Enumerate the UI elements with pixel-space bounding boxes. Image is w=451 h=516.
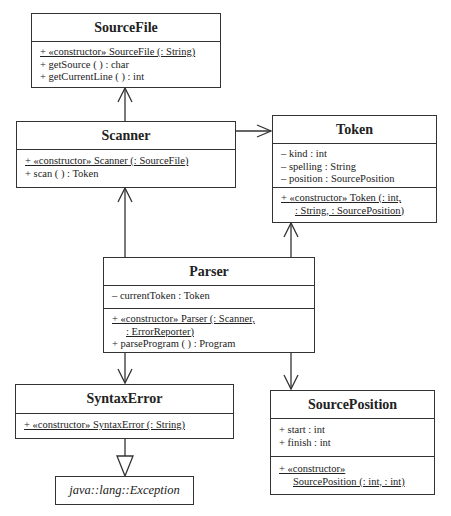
class-scanner: Scanner + «constructor» Scanner (: Sourc… — [16, 121, 236, 188]
class-name: SyntaxError — [16, 385, 233, 414]
attributes-compartment: – currentToken : Token — [104, 286, 314, 308]
operation: + scan ( ) : Token — [25, 168, 227, 181]
class-token: Token – kind : int – spelling : String –… — [272, 115, 437, 223]
operations-compartment: + «constructor» Token (: int, : String, … — [273, 187, 436, 217]
operation: + «constructor» SourceFile (: String) — [40, 46, 212, 59]
attribute: + start : int — [279, 424, 426, 437]
class-sourceposition: SourcePosition + start : int + finish : … — [270, 390, 435, 495]
operations-compartment: + «constructor» Scanner (: SourceFile) +… — [17, 150, 235, 180]
operation: + «constructor» Token (: int, — [281, 192, 428, 205]
operation-continuation: : String, : SourcePosition) — [295, 205, 404, 216]
operations-compartment: + «constructor» SourceFile (: String) + … — [32, 42, 220, 84]
class-name: Token — [273, 116, 436, 144]
hollow-triangle-icon — [117, 456, 133, 476]
operations-compartment: + «constructor» SourcePosition (: int, :… — [271, 456, 434, 488]
class-name: java::lang::Exception — [56, 477, 193, 504]
operations-compartment: + «constructor» Parser (: Scanner, : Err… — [104, 308, 314, 351]
attribute: + finish : int — [279, 437, 426, 450]
operation-continuation: : ErrorReporter) — [126, 326, 194, 337]
attribute: – spelling : String — [281, 161, 428, 174]
operation: + getCurrentLine ( ) : int — [40, 71, 212, 84]
attribute: – currentToken : Token — [112, 290, 306, 303]
attribute: – position : SourcePosition — [281, 173, 428, 186]
class-syntaxerror: SyntaxError + «constructor» SyntaxError … — [15, 384, 234, 439]
operation: + «constructor» — [279, 463, 426, 476]
class-name: Scanner — [17, 122, 235, 150]
class-parser: Parser – currentToken : Token + «constru… — [103, 257, 315, 353]
attributes-compartment: – kind : int – spelling : String – posit… — [273, 144, 436, 187]
class-exception: java::lang::Exception — [55, 476, 194, 505]
class-sourcefile: SourceFile + «constructor» SourceFile (:… — [31, 13, 221, 88]
operation: + «constructor» Parser (: Scanner, — [112, 313, 306, 326]
operation: + «constructor» Scanner (: SourceFile) — [25, 155, 227, 168]
class-name: SourcePosition — [271, 391, 434, 419]
operation-continuation: SourcePosition (: int, : int) — [293, 476, 405, 487]
operation: + «constructor» SyntaxError (: String) — [24, 419, 225, 432]
attributes-compartment: + start : int + finish : int — [271, 419, 434, 456]
operation: + getSource ( ) : char — [40, 59, 212, 72]
attribute: – kind : int — [281, 148, 428, 161]
operations-compartment: + «constructor» SyntaxError (: String) — [16, 414, 233, 432]
operation: + parseProgram ( ) : Program — [112, 338, 306, 351]
class-name: SourceFile — [32, 14, 220, 42]
class-name: Parser — [104, 258, 314, 286]
